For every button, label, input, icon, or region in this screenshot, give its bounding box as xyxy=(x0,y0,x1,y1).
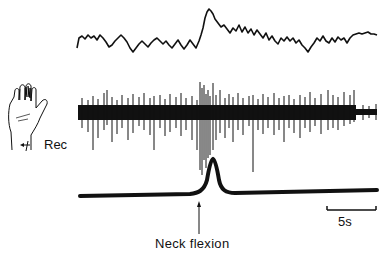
scale-bar-label: 5s xyxy=(338,214,352,229)
neurogram-spikes xyxy=(82,82,376,175)
neurogram-tail xyxy=(356,109,377,115)
arrow-up-icon xyxy=(197,201,201,234)
scale-bar xyxy=(327,206,376,210)
top-trace xyxy=(77,9,377,52)
figure-canvas xyxy=(0,0,387,255)
hand-palm-icon xyxy=(9,84,48,151)
recording-site-label: Rec xyxy=(44,137,67,152)
event-label: Neck flexion xyxy=(155,236,229,251)
bottom-trace xyxy=(80,159,377,196)
neurogram-band xyxy=(78,105,356,120)
